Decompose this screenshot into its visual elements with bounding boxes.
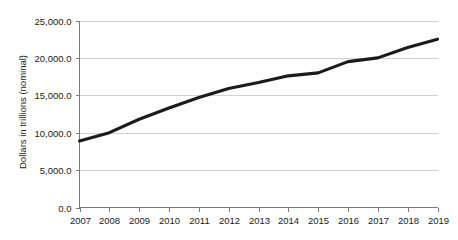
y-axis-tick-label: 10,000.0 — [35, 128, 72, 139]
y-axis-tick-label: 0.0 — [58, 203, 71, 214]
x-axis-tick-label: 2012 — [219, 215, 240, 226]
x-axis-tick-label: 2014 — [278, 215, 299, 226]
chart-canvas: 0.05,000.010,000.015,000.020,000.025,000… — [0, 0, 458, 240]
line-chart-figure: 0.05,000.010,000.015,000.020,000.025,000… — [0, 0, 458, 240]
y-axis-tick-label: 5,000.0 — [40, 165, 72, 176]
y-axis-tick-label: 20,000.0 — [35, 53, 72, 64]
x-axis-tick-label: 2019 — [428, 215, 449, 226]
x-axis-tick-label: 2013 — [249, 215, 270, 226]
y-axis-tick-label: 25,000.0 — [35, 16, 72, 27]
x-axis-tick-label: 2010 — [159, 215, 180, 226]
x-axis-tick-label: 2009 — [129, 215, 150, 226]
y-axis-tick-label: 15,000.0 — [35, 90, 72, 101]
x-axis-tick-label: 2016 — [338, 215, 359, 226]
x-axis-tick-label: 2007 — [70, 215, 91, 226]
x-axis-tick-label: 2011 — [189, 215, 209, 226]
x-axis-tick-label: 2008 — [99, 215, 120, 226]
x-axis-tick-label: 2018 — [398, 215, 419, 226]
x-axis-tick-label: 2017 — [368, 215, 389, 226]
x-axis-tick-label: 2015 — [308, 215, 329, 226]
y-axis-title: Dollars in trillions (nominal) — [17, 55, 28, 169]
